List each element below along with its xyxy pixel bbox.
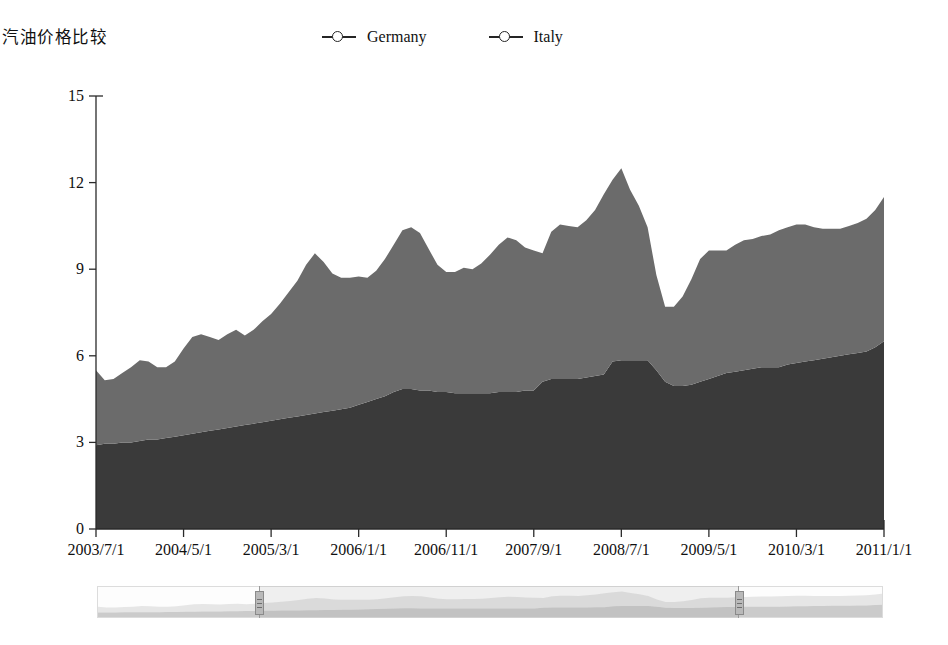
x-tick-label: 2004/5/1 xyxy=(155,541,212,559)
x-tick-label: 2007/9/1 xyxy=(505,541,562,559)
range-handle-right[interactable] xyxy=(735,591,744,615)
x-tick-label: 2006/1/1 xyxy=(330,541,387,559)
x-tick-label: 2009/5/1 xyxy=(680,541,737,559)
stacked-area-chart: 036912152003/7/12004/5/12005/3/12006/1/1… xyxy=(0,0,948,580)
y-tick-label: 15 xyxy=(36,87,84,105)
y-tick-label: 9 xyxy=(36,260,84,278)
chart-page: 汽油价格比较 Germany Italy 036912152003/7/1200… xyxy=(0,0,948,645)
y-tick-label: 3 xyxy=(36,433,84,451)
range-window[interactable] xyxy=(259,586,738,618)
y-tick-label: 12 xyxy=(36,174,84,192)
x-tick-label: 2003/7/1 xyxy=(68,541,125,559)
chart-canvas xyxy=(0,0,948,580)
x-tick-label: 2008/7/1 xyxy=(593,541,650,559)
range-handle-left[interactable] xyxy=(255,591,264,615)
data-zoom-range-selector[interactable] xyxy=(97,586,883,618)
y-tick-label: 0 xyxy=(36,520,84,538)
y-tick-label: 6 xyxy=(36,347,84,365)
x-tick-label: 2005/3/1 xyxy=(243,541,300,559)
x-tick-label: 2010/3/1 xyxy=(768,541,825,559)
x-tick-label: 2011/1/1 xyxy=(856,541,912,559)
x-tick-label: 2006/11/1 xyxy=(414,541,478,559)
